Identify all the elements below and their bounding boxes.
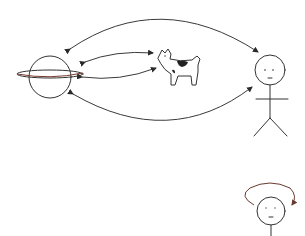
dog-icon (158, 49, 200, 85)
edge-planet-person-bottom (73, 87, 252, 120)
self-loop-arrow (245, 183, 295, 205)
face-icon (257, 197, 285, 236)
planet-icon (17, 56, 83, 98)
edge-planet-dog-lower (82, 68, 156, 78)
diagram-canvas: Relationships between planet, dog, and p… (0, 0, 305, 236)
edge-planet-person-top (70, 19, 258, 52)
stick-figure-icon (254, 55, 288, 136)
edge-planet-dog-upper (85, 52, 153, 62)
